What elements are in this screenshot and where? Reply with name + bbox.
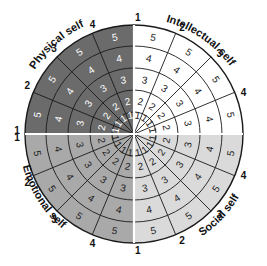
sector-label: 4 [90, 19, 96, 30]
sector-label: 2 [25, 80, 31, 91]
sector-label: 4 [241, 170, 247, 181]
wellness-wheel-diagram: 1234512345123451234512345123451234512345… [0, 0, 267, 266]
sector-label: 2 [179, 235, 185, 246]
sector-label: 1 [14, 125, 20, 136]
sector-label: 4 [241, 87, 247, 98]
sector-label: 1 [135, 245, 141, 256]
sector-label: 1 [135, 12, 141, 23]
sector-label: 4 [90, 238, 96, 249]
